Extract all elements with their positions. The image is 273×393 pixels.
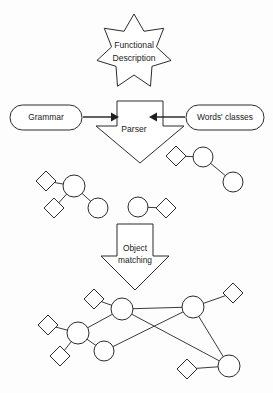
functional-description-label-line2: Description — [113, 53, 156, 63]
object-matching-label-line2: matching — [118, 255, 152, 265]
words-classes-node: Words' classes — [186, 105, 264, 130]
graph-node-diamond — [38, 315, 58, 335]
graph-node-diamond — [84, 289, 104, 309]
fragment-middle — [128, 197, 176, 218]
functional-description-node: Functional Description — [97, 14, 171, 86]
graph-node-circle — [128, 197, 148, 217]
graph-node-diamond — [156, 198, 176, 218]
grammar-to-parser-arrow — [83, 113, 119, 122]
graph-node-diamond — [36, 171, 56, 191]
grammar-label: Grammar — [28, 112, 64, 122]
graph-node-circle — [88, 198, 108, 218]
merged-graph-layer — [38, 283, 243, 379]
merged-object-graph — [38, 283, 243, 379]
graph-node-circle — [182, 296, 204, 318]
parser-label: Parser — [121, 124, 146, 134]
fragment-right-top — [166, 146, 243, 192]
graph-node-circle — [67, 322, 89, 344]
pipeline-diagram: Functional Description Parser Grammar Wo… — [0, 0, 273, 393]
graph-node-circle — [218, 355, 240, 377]
words-classes-label: Words' classes — [197, 112, 253, 122]
graph-node-circle — [193, 147, 213, 167]
object-matching-node: Object matching — [101, 224, 169, 290]
fragment-left — [36, 171, 108, 218]
graph-node-circle — [63, 175, 85, 197]
graph-node-diamond — [50, 346, 70, 366]
graph-node-circle — [111, 298, 133, 320]
graph-node-diamond — [166, 146, 186, 166]
graph-edge — [122, 309, 229, 366]
functional-description-label-line1: Functional — [114, 40, 154, 50]
grammar-node: Grammar — [10, 105, 82, 130]
graph-node-circle — [94, 341, 114, 361]
graph-node-diamond — [223, 283, 243, 303]
diagram-canvas: Functional Description Parser Grammar Wo… — [0, 0, 273, 393]
object-matching-label-line1: Object — [123, 243, 148, 253]
graph-node-diamond — [177, 359, 197, 379]
graph-node-circle — [223, 172, 243, 192]
